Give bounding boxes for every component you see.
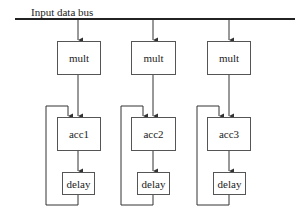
acc-box-3: acc3 <box>207 117 251 151</box>
delay-box-3: delay <box>213 172 246 195</box>
acc-box-1: acc1 <box>57 117 101 151</box>
diagram: Input data bus mult acc1 delay mult acc2… <box>0 0 308 218</box>
input-bus-label: Input data bus <box>31 6 93 18</box>
delay-box-1: delay <box>62 172 95 195</box>
mult-box-1: mult <box>57 41 101 75</box>
delay-box-2: delay <box>137 172 170 195</box>
mult-box-2: mult <box>131 41 176 75</box>
mult-box-3: mult <box>207 41 251 75</box>
acc-box-2: acc2 <box>131 117 176 151</box>
